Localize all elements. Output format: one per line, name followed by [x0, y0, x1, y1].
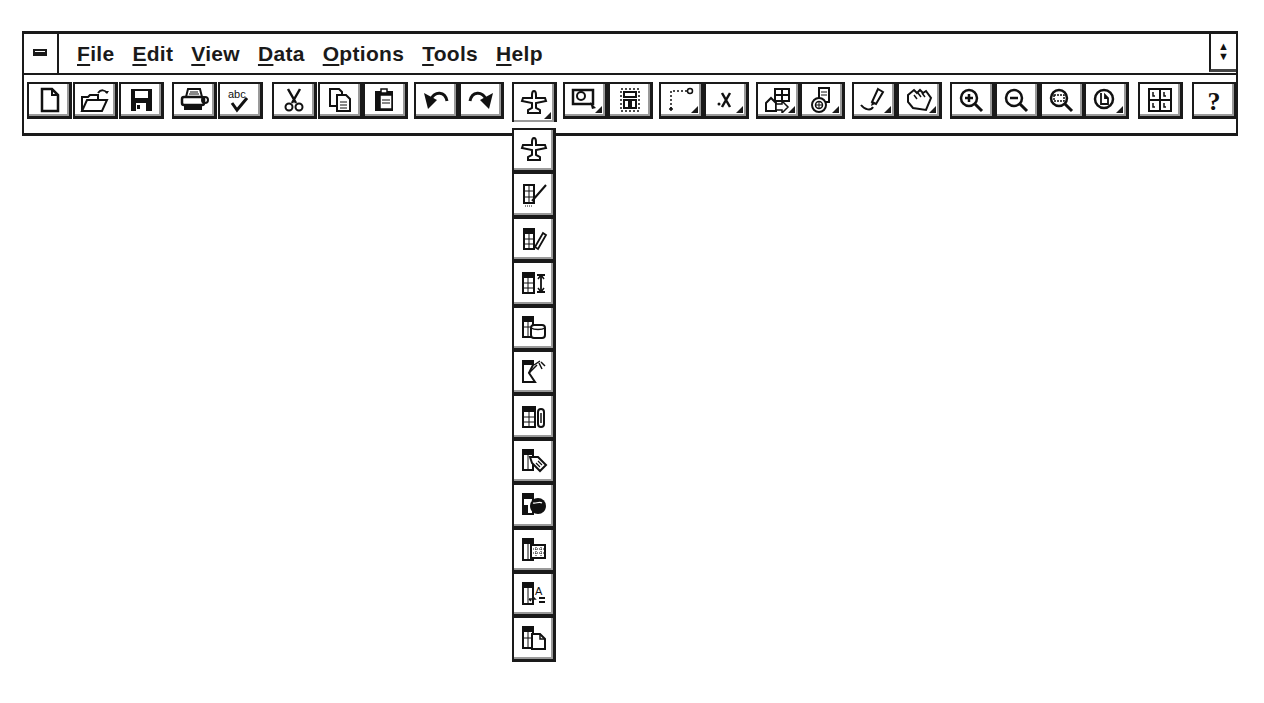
undo-button[interactable]	[414, 82, 459, 119]
menu-label: iew	[205, 42, 240, 65]
mnemonic: O	[323, 42, 340, 65]
sheet-pencil-icon	[520, 225, 548, 253]
redo-button[interactable]	[459, 82, 504, 119]
zoom-page-button[interactable]	[1084, 82, 1129, 119]
menu-view[interactable]: View	[191, 42, 240, 66]
plane-icon	[520, 136, 548, 164]
mark-tool-button[interactable]	[704, 82, 749, 119]
application-window: File Edit View Data Options Tools Help ▲…	[22, 31, 1238, 136]
menu-bar: File Edit View Data Options Tools Help ▲…	[24, 34, 1236, 75]
mnemonic: E	[132, 42, 146, 65]
menu-label: elp	[512, 42, 543, 65]
dropdown-indicator-icon	[1116, 106, 1123, 113]
flyout-item-sheet-globe[interactable]	[512, 483, 556, 528]
new-button[interactable]	[27, 82, 72, 119]
menu-tools[interactable]: Tools	[422, 42, 478, 66]
menu-edit[interactable]: Edit	[132, 42, 173, 66]
sheet-line-icon	[520, 181, 548, 209]
grid-quadrants-icon	[1145, 87, 1175, 113]
system-menu-icon	[33, 49, 47, 56]
sheet-cut-icon	[520, 358, 548, 386]
object-tools-flyout: A	[512, 129, 556, 662]
zoom-out-button[interactable]	[995, 82, 1040, 119]
layout-button[interactable]	[608, 82, 653, 119]
zoom-area-button[interactable]	[1040, 82, 1085, 119]
mnemonic: F	[77, 42, 90, 65]
spell-check-button[interactable]: abc	[218, 82, 263, 119]
database-button[interactable]	[800, 82, 845, 119]
dropdown-indicator-icon	[929, 106, 936, 113]
cut-button[interactable]	[272, 82, 317, 119]
dropdown-indicator-icon	[544, 112, 551, 119]
copy-icon	[325, 87, 355, 113]
svg-text:A: A	[535, 585, 543, 597]
flyout-item-sheet-paperclip[interactable]	[512, 394, 556, 439]
menu-label: ile	[90, 42, 114, 65]
copy-button[interactable]	[318, 82, 363, 119]
group-shapes-button[interactable]	[756, 82, 801, 119]
menu-label: ata	[273, 42, 304, 65]
flyout-item-sheet-pencil[interactable]	[512, 217, 556, 262]
sheet-paperclip-icon	[520, 403, 548, 431]
menu-help[interactable]: Help	[496, 42, 543, 66]
redo-icon	[466, 87, 496, 113]
save-button[interactable]	[119, 82, 164, 119]
help-button[interactable]: ?	[1192, 82, 1237, 119]
flyout-item-sheet-tag[interactable]	[512, 439, 556, 484]
save-disk-icon	[126, 87, 156, 113]
dropdown-indicator-icon	[884, 106, 891, 113]
scissors-icon	[279, 87, 309, 113]
line-tool-button[interactable]	[659, 82, 704, 119]
zoom-in-icon	[957, 87, 987, 113]
sheet-globe-icon	[520, 491, 548, 519]
draw-button[interactable]	[852, 82, 897, 119]
flyout-item-sheet-line[interactable]	[512, 172, 556, 217]
menu-data[interactable]: Data	[258, 42, 305, 66]
menu-label: ools	[434, 42, 478, 65]
flyout-item-sheet-page[interactable]	[512, 616, 556, 661]
sheet-resize-icon	[520, 269, 548, 297]
help-icon: ?	[1199, 87, 1229, 113]
menu-label: ptions	[339, 42, 404, 65]
system-menu-button[interactable]	[24, 34, 59, 75]
object-tools-button[interactable]	[512, 82, 557, 122]
flyout-item-sheet-text[interactable]: A	[512, 572, 556, 617]
restore-button[interactable]: ▲▼	[1209, 32, 1236, 72]
dropdown-indicator-icon	[736, 106, 743, 113]
grid-button[interactable]	[1138, 82, 1183, 119]
restore-arrows-icon: ▲▼	[1218, 41, 1229, 61]
flyout-item-sheet-cut[interactable]	[512, 350, 556, 395]
select-frame-button[interactable]	[563, 82, 608, 119]
mnemonic: H	[496, 42, 511, 65]
open-folder-icon	[80, 87, 110, 113]
flyout-item-sheet-cylinder[interactable]	[512, 306, 556, 351]
dropdown-indicator-icon	[595, 106, 602, 113]
menu-label: dit	[147, 42, 174, 65]
dropdown-indicator-icon	[788, 106, 795, 113]
sheet-grid-icon	[520, 536, 548, 564]
flyout-item-sheet-resize[interactable]	[512, 261, 556, 306]
hand-pan-button[interactable]	[897, 82, 942, 119]
printer-icon	[179, 87, 209, 113]
mnemonic: T	[422, 42, 434, 65]
flyout-item-plane[interactable]	[512, 128, 556, 173]
toolbar: abc	[27, 82, 1239, 120]
mnemonic: D	[258, 42, 273, 65]
zoom-out-icon	[1002, 87, 1032, 113]
new-document-icon	[34, 87, 64, 113]
svg-text:abc: abc	[228, 88, 246, 100]
menu-options[interactable]: Options	[323, 42, 404, 66]
flyout-item-sheet-grid[interactable]	[512, 528, 556, 573]
spell-check-icon: abc	[225, 87, 255, 113]
sheet-cylinder-icon	[520, 314, 548, 342]
dropdown-indicator-icon	[691, 106, 698, 113]
mnemonic: V	[191, 42, 205, 65]
open-button[interactable]	[73, 82, 118, 119]
paste-button[interactable]	[363, 82, 408, 119]
menu-file[interactable]: File	[77, 42, 114, 66]
clipboard-icon	[370, 87, 400, 113]
sheet-tag-icon	[520, 447, 548, 475]
zoom-in-button[interactable]	[950, 82, 995, 119]
zoom-area-icon	[1047, 87, 1077, 113]
print-button[interactable]	[172, 82, 217, 119]
